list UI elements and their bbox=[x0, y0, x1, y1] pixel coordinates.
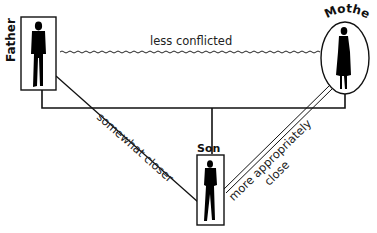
less-conflicted-label: less conflicted bbox=[150, 34, 232, 48]
son-label: Son bbox=[197, 142, 220, 155]
son-node: Son bbox=[197, 142, 224, 225]
family-diagram: less conflicted somewhat closer more app… bbox=[0, 0, 377, 233]
father-node: Father bbox=[4, 17, 56, 90]
more-appropriately-label: more appropriately bbox=[226, 116, 315, 204]
father-label: Father bbox=[4, 18, 18, 62]
somewhat-closer-label: somewhat closer bbox=[94, 110, 176, 185]
parent-bar-line bbox=[42, 90, 345, 108]
less-conflicted-wavy-line bbox=[60, 51, 320, 53]
more-appropriately-close-label-group: more appropriately close bbox=[226, 116, 325, 214]
